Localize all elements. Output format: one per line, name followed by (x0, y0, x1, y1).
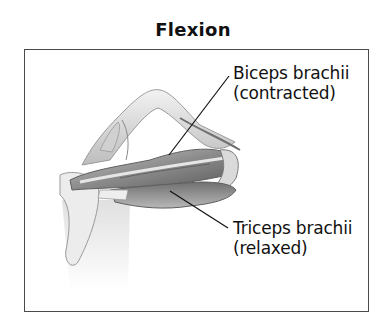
biceps-label: Biceps brachii (contracted) (233, 63, 349, 103)
triceps-name: Triceps brachii (233, 218, 352, 238)
triceps-state: (relaxed) (233, 238, 352, 258)
triceps-label: Triceps brachii (relaxed) (233, 218, 352, 258)
biceps-state: (contracted) (233, 83, 349, 103)
arm-flexion-illustration (0, 0, 386, 319)
biceps-name: Biceps brachii (233, 63, 349, 83)
